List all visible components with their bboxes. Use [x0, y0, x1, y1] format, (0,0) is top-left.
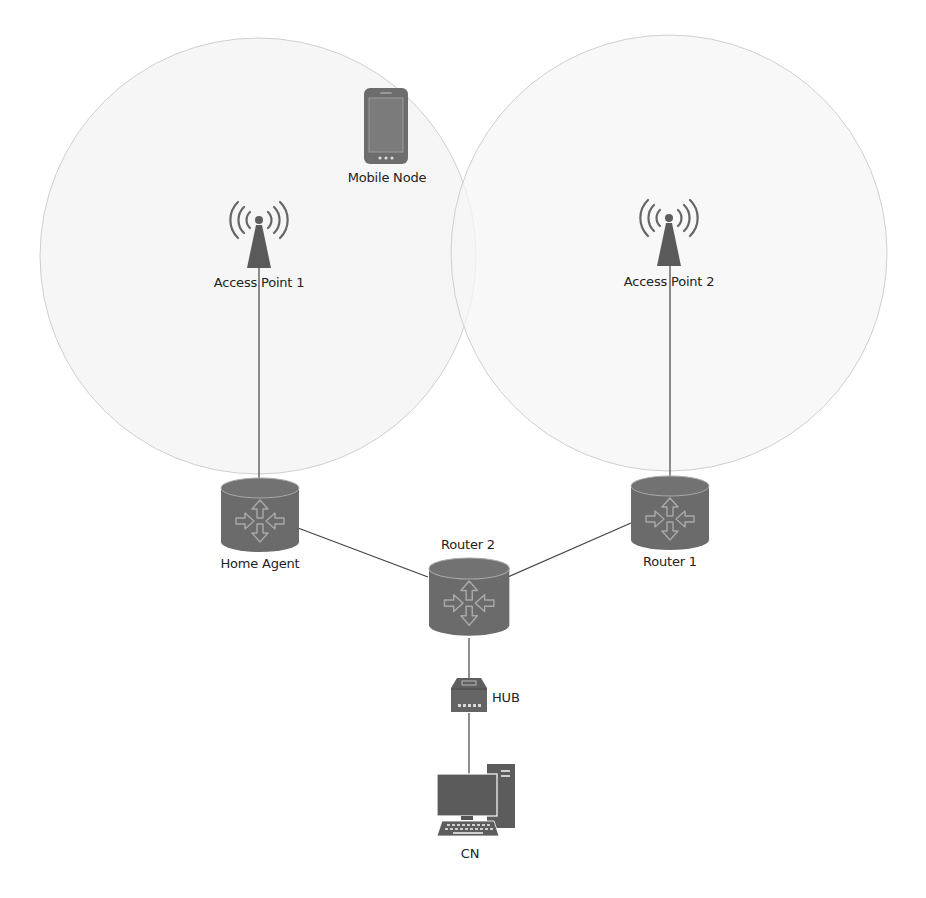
link-home-agent-router2: [298, 528, 428, 577]
link-router1-router2: [508, 523, 631, 577]
router-icon-home-agent[interactable]: [221, 478, 299, 552]
access-point-2-label: Access Point 2: [624, 274, 715, 290]
hub-icon[interactable]: [451, 678, 487, 712]
router-2-label: Router 2: [441, 537, 495, 553]
router-1-label: Router 1: [643, 554, 697, 570]
smartphone-icon[interactable]: [364, 88, 408, 164]
router-icon-router-2[interactable]: [429, 558, 509, 636]
cn-label: CN: [461, 846, 479, 862]
router-icon-router-1[interactable]: [631, 476, 709, 550]
network-diagram-canvas: [0, 0, 926, 898]
access-point-1-label: Access Point 1: [214, 275, 305, 291]
home-agent-label: Home Agent: [220, 556, 299, 572]
desktop-computer-icon[interactable]: [437, 764, 515, 836]
hub-label: HUB: [492, 690, 520, 706]
mobile-node-label: Mobile Node: [348, 170, 427, 186]
